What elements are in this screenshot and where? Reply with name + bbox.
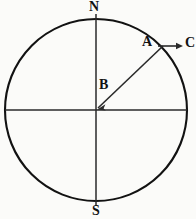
label-point-c: C <box>185 36 195 50</box>
diagram-canvas <box>0 0 196 219</box>
label-point-a: A <box>142 35 152 49</box>
geometry-diagram-figure: N S A B C <box>0 0 196 219</box>
tangent-arrowhead-icon <box>176 43 183 49</box>
label-north: N <box>89 0 99 14</box>
label-south: S <box>92 204 100 218</box>
label-point-b: B <box>99 78 108 92</box>
